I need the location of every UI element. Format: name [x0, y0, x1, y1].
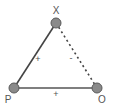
node-label-o: O	[98, 94, 106, 105]
edge-sign-x-o: -	[70, 53, 73, 63]
node-o	[92, 83, 102, 93]
edge-sign-p-o: +	[53, 89, 58, 99]
signed-graph-diagram: + - + X P O	[0, 0, 118, 108]
node-p	[9, 83, 19, 93]
node-label-p: P	[5, 94, 12, 105]
node-x	[51, 18, 61, 28]
edge-x-o	[56, 23, 97, 88]
node-label-x: X	[53, 5, 60, 16]
edge-sign-p-x: +	[35, 54, 40, 64]
